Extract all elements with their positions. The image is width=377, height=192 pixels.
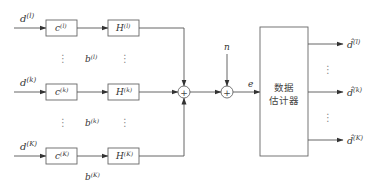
row-k: d(k) c(k) H(k) — [14, 76, 178, 100]
b-label-k: b(k) — [85, 117, 100, 128]
output-label-l: d̂(l) — [347, 38, 361, 50]
row-l: d(l) c(l) H(l) — [14, 12, 184, 86]
ellipsis-h-2: ⋮ — [120, 117, 130, 128]
row-K: d(K) c(K) H(K) — [14, 98, 184, 164]
plus-icon: + — [180, 88, 188, 98]
input-label-k: d(k) — [20, 76, 36, 88]
ellipsis-c-2: ⋮ — [58, 117, 68, 128]
ellipsis-out-1: ⋮ — [323, 64, 333, 75]
h-to-summer-line-l — [139, 28, 184, 86]
input-label-K: d(K) — [20, 140, 37, 152]
ellipsis-c-1: ⋮ — [58, 53, 68, 64]
cdma-system-diagram: d(l) c(l) H(l) ⋮ ⋮ b(l) d(k) c(k) H(k) ⋮… — [0, 0, 377, 192]
b-label-K: b(K) — [85, 171, 101, 182]
b-label-l: b(l) — [85, 53, 98, 64]
input-label-l: d(l) — [20, 12, 34, 24]
signal-label-e: e — [248, 79, 253, 89]
estimator-label-line2: 估计器 — [269, 95, 299, 106]
plus-icon: + — [223, 88, 231, 98]
estimator-label-line1: 数据 — [274, 82, 294, 93]
ellipsis-h-1: ⋮ — [120, 53, 130, 64]
h-to-summer-line-K — [139, 98, 184, 156]
summer-2: + — [221, 86, 233, 98]
noise-label: n — [224, 42, 230, 52]
summer-1: + — [178, 86, 190, 98]
output-label-K: d̂(K) — [347, 134, 363, 146]
ellipsis-out-2: ⋮ — [323, 112, 333, 123]
output-label-k: d̂(k) — [347, 86, 363, 98]
